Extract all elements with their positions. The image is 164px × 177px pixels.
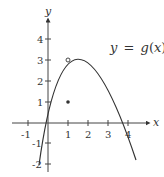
svg-text:-1: -1 bbox=[32, 138, 42, 149]
svg-text:2: 2 bbox=[37, 76, 43, 87]
svg-text:3: 3 bbox=[105, 129, 111, 140]
filled-point bbox=[66, 100, 70, 104]
svg-text:-1: -1 bbox=[21, 129, 31, 140]
function-graph: x y -1 1 2 3 4 -2 -1 1 2 3 4 y = bbox=[0, 0, 164, 177]
svg-text:-2: -2 bbox=[32, 159, 42, 170]
svg-text:4: 4 bbox=[37, 34, 43, 45]
svg-text:1: 1 bbox=[65, 129, 71, 140]
y-axis-label: y bbox=[44, 5, 52, 18]
function-label: y = g(x) bbox=[109, 40, 164, 55]
open-circle-hole bbox=[66, 58, 70, 62]
x-axis-label: x bbox=[153, 116, 160, 129]
svg-text:3: 3 bbox=[37, 55, 43, 66]
curve-g bbox=[39, 59, 136, 165]
svg-text:2: 2 bbox=[85, 129, 91, 140]
svg-text:1: 1 bbox=[37, 97, 43, 108]
